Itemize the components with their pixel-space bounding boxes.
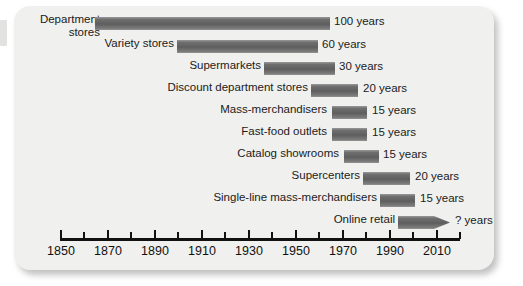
- bar-value-label: 20 years: [415, 169, 459, 184]
- bar-label: Online retail: [334, 213, 395, 226]
- bar: [332, 128, 367, 141]
- bar-label-line: Department: [40, 13, 100, 26]
- chart-row: Supercenters 20 years: [14, 169, 494, 190]
- chart-row: Online retail ? years: [14, 213, 494, 234]
- bar: [344, 150, 379, 163]
- bar-value-label: 30 years: [339, 59, 383, 74]
- bar-label: Fast-food outlets: [241, 125, 327, 138]
- bar-label: Supermarkets: [189, 59, 261, 72]
- bar: [177, 40, 318, 53]
- bar-value-label: 15 years: [372, 125, 416, 140]
- axis-tick-label: 1910: [188, 244, 216, 258]
- chart-row: Department stores 100 years: [14, 14, 494, 35]
- chart-row: Catalog showrooms 15 years: [14, 147, 494, 168]
- chart-panel: Department stores 100 years Variety stor…: [14, 6, 494, 270]
- arrow-right-icon: [398, 216, 450, 229]
- bar-value-label: 15 years: [383, 147, 427, 162]
- bar: [363, 172, 410, 185]
- bar-label: Department stores: [40, 13, 100, 38]
- axis-tick-label: 1850: [47, 244, 75, 258]
- bar-label: Catalog showrooms: [237, 147, 339, 160]
- chart-row: Supermarkets 30 years: [14, 59, 494, 80]
- axis-tick-label: 1950: [282, 244, 310, 258]
- bar: [311, 84, 358, 97]
- bar-label: Supercenters: [292, 169, 360, 182]
- axis-tick-label: 1870: [94, 244, 122, 258]
- chart-row: Fast-food outlets 15 years: [14, 125, 494, 146]
- chart-row: Variety stores 60 years: [14, 37, 494, 58]
- bar-open-ended: [398, 216, 450, 229]
- chart-row: Single-line mass-merchandisers 15 years: [14, 191, 494, 212]
- axis-line: [60, 238, 460, 241]
- bar-label: Discount department stores: [167, 81, 308, 94]
- axis-tick-label: 1990: [376, 244, 404, 258]
- bar-value-label: 100 years: [334, 14, 385, 29]
- page-edge-artifact: [0, 20, 7, 46]
- bar-label: Single-line mass-merchandisers: [213, 191, 377, 204]
- axis-tick-label: 2010: [423, 244, 451, 258]
- bar-value-label: 15 years: [420, 191, 464, 206]
- axis-tick-label: 1930: [235, 244, 263, 258]
- chart-row: Mass-merchandisers 15 years: [14, 103, 494, 124]
- bar-value-label: 60 years: [322, 37, 366, 52]
- bar: [380, 194, 415, 207]
- axis-tick-label: 1970: [329, 244, 357, 258]
- bar-value-label: 20 years: [363, 81, 407, 96]
- bar-label: Variety stores: [105, 37, 174, 50]
- axis-tick-label: 1890: [141, 244, 169, 258]
- bar-value-label: 15 years: [372, 103, 416, 118]
- bar: [264, 62, 335, 75]
- chart-row: Discount department stores 20 years: [14, 81, 494, 102]
- bar-value-label: ? years: [455, 213, 493, 228]
- chart-figure: Department stores 100 years Variety stor…: [0, 0, 523, 286]
- bar: [332, 106, 367, 119]
- bar-label: Mass-merchandisers: [220, 103, 327, 116]
- bar: [95, 17, 330, 30]
